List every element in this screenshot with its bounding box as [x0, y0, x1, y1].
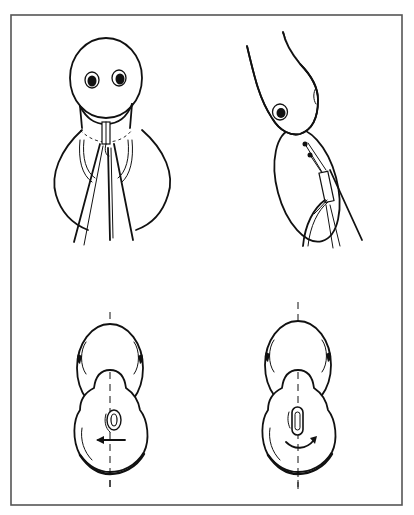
panel-bottom-left	[74, 312, 147, 490]
instrument-shaft	[108, 148, 110, 240]
eye-right-icon	[112, 70, 126, 86]
eye-side-icon	[273, 104, 288, 120]
panel-top-left	[54, 38, 170, 245]
probe-instrument	[303, 142, 363, 249]
opening-ring	[107, 410, 121, 430]
eye-left-icon	[85, 72, 99, 88]
panel-top-right	[247, 32, 362, 249]
instrument-blade-right	[114, 144, 133, 240]
fold-left	[80, 140, 96, 182]
diagram-canvas	[0, 0, 414, 515]
figure-frame	[11, 15, 402, 505]
opening-slot	[292, 407, 303, 435]
panel-bottom-right	[262, 302, 335, 490]
